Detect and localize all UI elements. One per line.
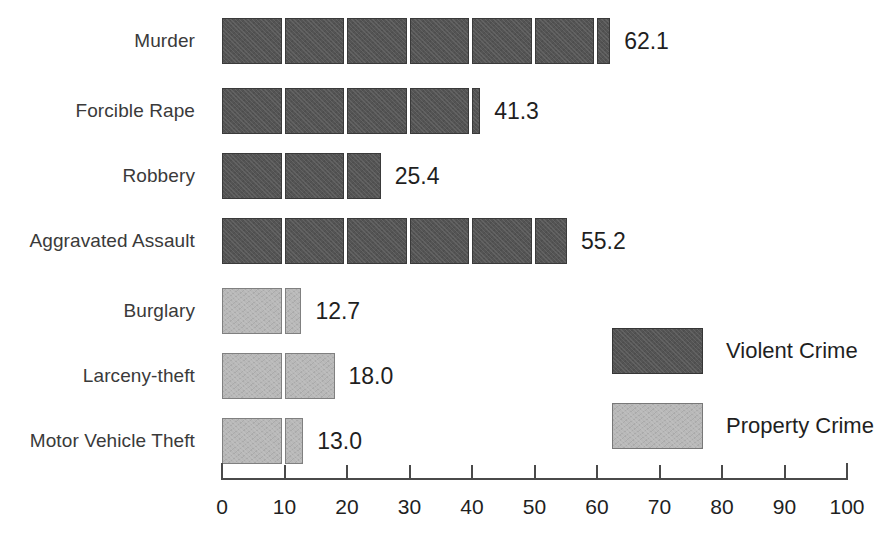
category-label: Larceny-theft <box>83 353 195 399</box>
axis-tick <box>596 465 598 480</box>
bar-segment <box>285 153 345 199</box>
bar-segment <box>285 218 345 264</box>
bar[interactable] <box>222 153 381 199</box>
axis-tick-label: 90 <box>773 495 796 519</box>
bar-segment <box>410 88 470 134</box>
bar-segment <box>222 353 282 399</box>
axis-tick <box>284 465 286 480</box>
bar-segment <box>410 218 470 264</box>
legend-label-property-crime: Property Crime <box>726 413 874 439</box>
bar-segment <box>347 218 407 264</box>
bar[interactable] <box>222 418 303 464</box>
bar-row: Murder62.1 <box>0 18 883 64</box>
bar-segment <box>597 18 610 64</box>
axis-tick <box>221 463 223 480</box>
bar-segment <box>410 18 470 64</box>
bar-value-label: 12.7 <box>315 288 360 334</box>
bar-value-label: 41.3 <box>494 88 539 134</box>
bar-segment <box>285 353 335 399</box>
bar-segment <box>347 18 407 64</box>
axis-tick <box>659 465 661 480</box>
axis-tick-label: 100 <box>829 495 864 519</box>
bar-segment <box>347 153 381 199</box>
bar-segment <box>347 88 407 134</box>
bar-segment <box>222 218 282 264</box>
bar-segment <box>285 88 345 134</box>
category-label: Motor Vehicle Theft <box>30 418 195 464</box>
bar-value-label: 62.1 <box>624 18 669 64</box>
axis-tick-label: 40 <box>460 495 483 519</box>
bar-value-label: 25.4 <box>395 153 440 199</box>
legend-entry-violent-crime: Violent Crime <box>612 328 858 374</box>
bar-segment <box>285 418 304 464</box>
bar-value-label: 55.2 <box>581 218 626 264</box>
category-label: Burglary <box>123 288 195 334</box>
legend-entry-property-crime: Property Crime <box>612 403 874 449</box>
bar-row: Robbery25.4 <box>0 153 883 199</box>
bar-segment <box>222 88 282 134</box>
bar-value-label: 13.0 <box>317 418 362 464</box>
axis-tick-label: 30 <box>398 495 421 519</box>
category-label: Aggravated Assault <box>29 218 195 264</box>
x-axis: 0102030405060708090100 <box>222 478 847 480</box>
category-label: Robbery <box>122 153 195 199</box>
bar-value-label: 18.0 <box>349 353 394 399</box>
axis-tick-label: 70 <box>648 495 671 519</box>
axis-tick-label: 20 <box>335 495 358 519</box>
bar-segment <box>285 288 302 334</box>
bar-segment <box>472 88 480 134</box>
category-label: Murder <box>134 18 195 64</box>
bar-segment <box>222 288 282 334</box>
property-crime-swatch-icon <box>612 403 703 449</box>
axis-tick-label: 10 <box>273 495 296 519</box>
bar-segment <box>222 18 282 64</box>
bar-row: Forcible Rape41.3 <box>0 88 883 134</box>
axis-tick-label: 60 <box>585 495 608 519</box>
bar-segment <box>222 418 282 464</box>
bar-row: Aggravated Assault55.2 <box>0 218 883 264</box>
violent-crime-swatch-icon <box>612 328 703 374</box>
axis-tick-label: 0 <box>216 495 228 519</box>
axis-tick <box>534 465 536 480</box>
bar-segment <box>285 18 345 64</box>
bar-chart: Murder62.1Forcible Rape41.3Robbery25.4Ag… <box>0 0 883 548</box>
bar[interactable] <box>222 218 567 264</box>
legend-label-violent-crime: Violent Crime <box>726 338 858 364</box>
bar[interactable] <box>222 18 610 64</box>
bar[interactable] <box>222 353 335 399</box>
bar-segment <box>222 153 282 199</box>
bar-segment <box>535 18 595 64</box>
category-label: Forcible Rape <box>75 88 195 134</box>
bar-segment <box>535 218 568 264</box>
axis-tick <box>846 463 848 480</box>
bar[interactable] <box>222 288 301 334</box>
axis-tick <box>471 465 473 480</box>
axis-tick <box>409 465 411 480</box>
axis-tick <box>784 465 786 480</box>
bar-segment <box>472 218 532 264</box>
axis-tick-label: 50 <box>523 495 546 519</box>
bar[interactable] <box>222 88 480 134</box>
bar-segment <box>472 18 532 64</box>
axis-tick-label: 80 <box>710 495 733 519</box>
axis-tick <box>346 465 348 480</box>
axis-tick <box>721 465 723 480</box>
